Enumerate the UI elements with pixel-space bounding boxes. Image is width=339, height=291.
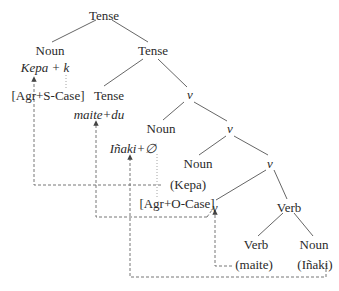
node-tense-root: Tense	[89, 8, 119, 23]
node-v-phrase: v	[187, 87, 193, 102]
node-agr-s-case: [Agr+S-Case]	[11, 88, 84, 103]
node-kepa-trace: (Kepa)	[170, 177, 206, 192]
node-tense-head: Tense	[94, 88, 124, 103]
node-noun-inaki: Noun	[300, 237, 329, 252]
node-noun-object: Noun	[147, 121, 176, 136]
node-v-bar2: v	[267, 156, 273, 171]
node-tense-bar: Tense	[138, 43, 168, 58]
node-inaki-trace: (Iñaki)	[297, 257, 332, 272]
node-noun-kepa: Noun	[184, 156, 213, 171]
node-inaki-null: Iñaki+∅	[110, 141, 156, 156]
node-kepa-k: Kepa + k	[21, 60, 69, 75]
node-verb-head: Verb	[244, 237, 269, 252]
node-noun-subject: Noun	[36, 43, 65, 58]
node-agr-o-case: [Agr+O-Case]	[139, 196, 214, 211]
node-v-head: v	[212, 201, 217, 216]
node-maite-du: maite+du	[74, 107, 125, 122]
node-v-bar: v	[227, 121, 233, 136]
node-verb-phrase: Verb	[277, 200, 302, 215]
node-maite-trace: (maite)	[235, 257, 273, 272]
